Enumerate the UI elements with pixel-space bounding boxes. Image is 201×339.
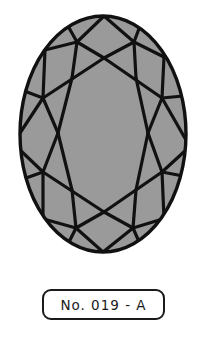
catalog-number-text: No. 019 - A (60, 297, 146, 313)
catalog-number-label: No. 019 - A (42, 289, 165, 320)
oval-gem-diagram (0, 0, 201, 270)
